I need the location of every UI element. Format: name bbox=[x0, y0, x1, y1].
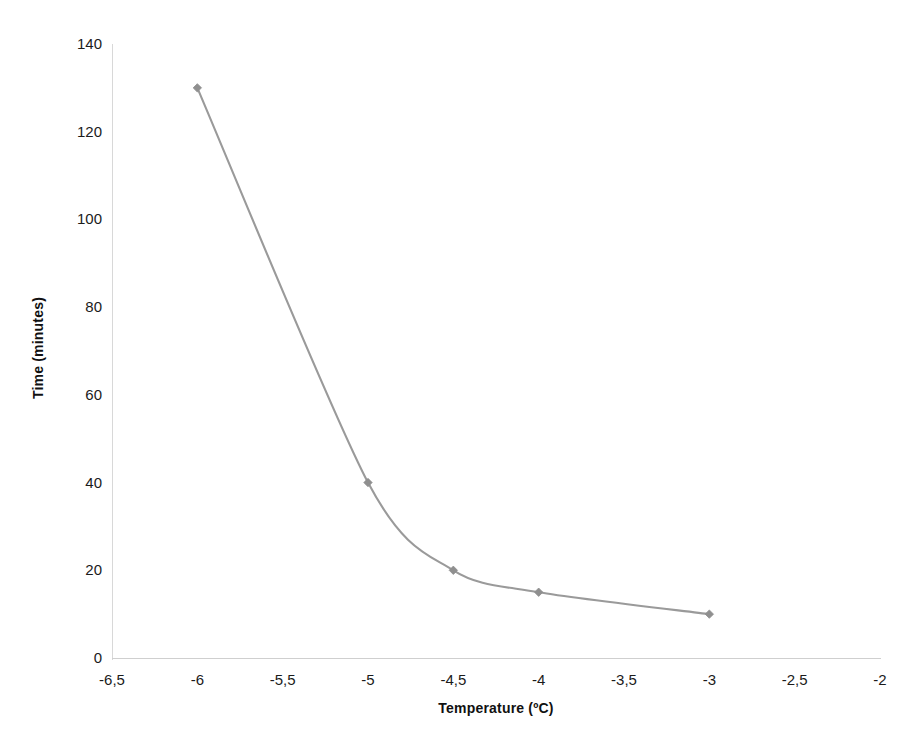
data-point-marker bbox=[193, 84, 201, 92]
line-chart: 020406080100120140 -6,5-6-5,5-5-4,5-4-3,… bbox=[0, 0, 924, 732]
series-time-minutes bbox=[193, 84, 713, 619]
data-point-marker bbox=[705, 610, 713, 618]
series-layer bbox=[0, 0, 924, 732]
series-line bbox=[197, 88, 709, 614]
data-point-marker bbox=[364, 478, 372, 486]
series-markers bbox=[193, 84, 713, 619]
data-point-marker bbox=[534, 588, 542, 596]
